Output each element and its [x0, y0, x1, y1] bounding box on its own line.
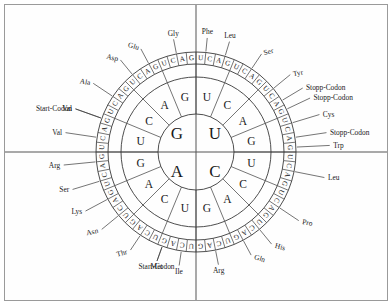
third-base-divider — [186, 52, 187, 64]
third-base-45: C — [100, 171, 109, 178]
third-base-group-divider — [225, 71, 230, 83]
second-base-GC: C — [145, 115, 153, 127]
leader-line-22 — [66, 133, 97, 138]
amino-acid-label-asn: Asn — [86, 226, 100, 237]
third-base-3: G — [224, 59, 232, 68]
third-base-16: U — [286, 154, 294, 160]
second-base-divider — [167, 83, 181, 117]
second-base-AU: U — [181, 202, 190, 214]
leader-line-27 — [141, 49, 148, 63]
second-base-CA: A — [223, 193, 232, 205]
amino-acid-label-arg: Arg — [49, 161, 61, 170]
amino-acid-label-stopp-codon: Stopp-Codon — [330, 128, 370, 137]
amino-acid-label-start-codon: Start-Codon — [36, 104, 72, 113]
amino-acid-label-leu: Leu — [224, 31, 236, 40]
leader-line-10 — [280, 208, 299, 221]
third-base-50: A — [100, 125, 109, 133]
third-base-divider — [205, 52, 206, 64]
third-base-46: A — [99, 162, 108, 169]
leader-line-8 — [297, 145, 330, 147]
third-base-43: G — [106, 188, 115, 196]
third-base-49: C — [99, 135, 108, 141]
third-base-0: U — [198, 54, 204, 62]
third-base-28: U — [223, 236, 231, 246]
third-base-divider — [284, 142, 296, 143]
third-base-34: A — [169, 238, 177, 247]
leader-line-16 — [157, 247, 162, 261]
third-base-63: G — [189, 54, 195, 62]
second-base-UG: G — [247, 135, 255, 147]
leader-line-26 — [120, 60, 132, 74]
second-base-UU: U — [203, 91, 212, 103]
second-base-GG: G — [181, 91, 189, 103]
genetic-code-wheel: UCAG UCAGUCAGUCAGUCAG UCAGUCAGUCAGUCAGUC… — [0, 0, 392, 305]
leader-line-5 — [287, 98, 310, 109]
amino-acid-label-start-codon: Start-Codon — [138, 262, 174, 271]
second-base-AA: A — [145, 178, 154, 190]
second-base-divider — [167, 187, 181, 221]
leader-line-11 — [260, 230, 272, 244]
amino-acid-label-stopp-codon: Stopp-Codon — [313, 93, 353, 102]
first-base-U: U — [209, 124, 221, 143]
third-base-19: G — [280, 180, 289, 188]
amino-acid-label-pro: Pro — [302, 217, 314, 228]
leader-line-3 — [274, 75, 290, 88]
third-base-group-divider — [162, 71, 167, 83]
amino-acid-label-ser: Ser — [59, 185, 69, 194]
leader-line-25 — [93, 83, 112, 96]
third-base-12: U — [280, 117, 290, 125]
third-base-44: U — [103, 179, 113, 187]
third-base-group-divider — [162, 221, 167, 233]
third-base-group-divider — [134, 90, 143, 99]
leader-line-4 — [283, 88, 303, 100]
amino-acid-label-gln: Gln — [253, 252, 267, 264]
third-base-35: G — [161, 236, 169, 245]
third-base-14: A — [285, 135, 294, 142]
third-base-31: G — [198, 242, 204, 250]
third-base-group-divider — [265, 118, 277, 123]
third-base-group-divider — [265, 181, 277, 186]
amino-acid-label-trp: Trp — [333, 141, 344, 150]
axis-lines — [5, 5, 387, 300]
leader-line-7 — [296, 133, 327, 138]
leader-line-12 — [244, 241, 251, 255]
amino-acid-label-phe: Phe — [202, 27, 214, 36]
leader-line-1 — [225, 42, 229, 56]
leader-line-21 — [64, 162, 96, 165]
amino-acid-label-ala: Ala — [79, 76, 92, 87]
third-base-29: C — [215, 239, 222, 248]
third-base-51: G — [103, 117, 112, 125]
third-base-group-divider — [249, 90, 258, 99]
third-base-59: G — [152, 62, 160, 71]
third-base-33: C — [179, 241, 185, 250]
third-base-13: C — [283, 126, 292, 133]
leader-line-9 — [295, 172, 324, 178]
third-base-group-divider — [115, 118, 127, 123]
third-base-30: A — [206, 241, 213, 250]
third-base-group-divider — [249, 205, 258, 214]
leader-line-0 — [206, 38, 207, 52]
amino-acid-label-thr: Thr — [115, 247, 128, 259]
third-base-divider — [96, 161, 108, 162]
third-base-32: U — [188, 242, 194, 250]
leader-line-24 — [75, 109, 100, 118]
first-base-G: G — [171, 124, 183, 143]
leader-line-17 — [130, 236, 139, 250]
second-base-UA: A — [239, 115, 248, 127]
amino-acid-label-tyr: Tyr — [292, 67, 304, 78]
amino-acid-label-stopp-codon: Stopp-Codon — [306, 83, 346, 92]
third-base-18: A — [282, 171, 291, 179]
third-base-17: C — [285, 163, 294, 169]
first-base-C: C — [209, 162, 220, 181]
second-base-CG: G — [203, 202, 211, 214]
third-base-61: C — [170, 56, 177, 65]
third-base-48: U — [98, 144, 106, 150]
amino-acid-label-arg: Arg — [213, 266, 225, 275]
first-base-A: A — [171, 162, 184, 181]
second-base-GU: U — [136, 135, 145, 147]
third-base-divider — [284, 161, 296, 162]
second-base-AC: C — [161, 193, 169, 205]
leader-line-18 — [102, 216, 118, 229]
leader-line-20 — [73, 181, 100, 189]
amino-acid-label-cys: Cys — [323, 110, 335, 119]
